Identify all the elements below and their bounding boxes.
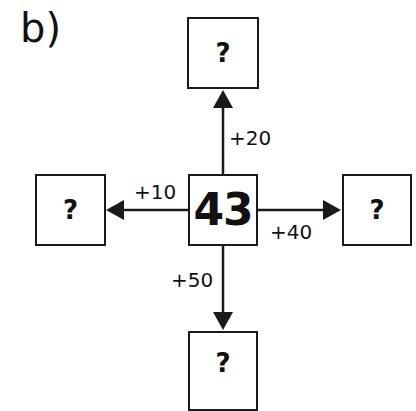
right-box: ? [342, 174, 412, 246]
center-box: 43 [188, 174, 258, 246]
top-unknown: ? [215, 40, 230, 66]
top-box: ? [187, 17, 259, 89]
left-unknown: ? [63, 197, 78, 223]
bottom-box: ? [188, 331, 258, 411]
op-bottom: +50 [171, 270, 213, 290]
right-unknown: ? [369, 197, 384, 223]
arrow-right-icon [323, 200, 341, 220]
arrow-up-icon [213, 90, 233, 108]
op-top: +20 [229, 128, 271, 148]
center-value: 43 [193, 188, 252, 232]
op-right: +40 [270, 222, 312, 242]
left-box: ? [35, 174, 106, 246]
arrow-down-icon [213, 312, 233, 330]
op-left: +10 [134, 182, 176, 202]
bottom-unknown: ? [215, 350, 230, 376]
arrow-left-icon [106, 200, 124, 220]
